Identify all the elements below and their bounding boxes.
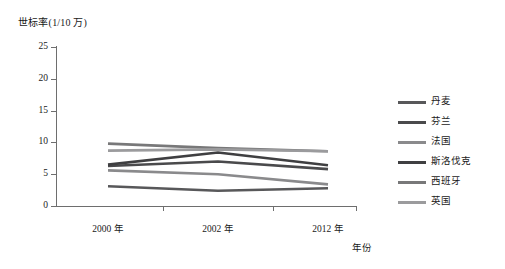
- legend-label: 斯洛伐克: [431, 157, 471, 167]
- legend-label: 芬兰: [431, 117, 451, 127]
- legend-label: 丹麦: [431, 97, 451, 107]
- series-line: [108, 186, 328, 190]
- legend-swatch: [398, 181, 426, 184]
- legend-label: 法国: [431, 137, 451, 147]
- legend-swatch: [398, 121, 426, 124]
- legend-item[interactable]: 丹麦: [398, 92, 498, 112]
- legend-label: 英国: [431, 197, 451, 207]
- x-axis-title: 年份: [352, 240, 372, 254]
- legend-item[interactable]: 西班牙: [398, 172, 498, 192]
- series-line: [108, 149, 328, 151]
- legend-item[interactable]: 芬兰: [398, 112, 498, 132]
- legend-item[interactable]: 法国: [398, 132, 498, 152]
- legend-item[interactable]: 斯洛伐克: [398, 152, 498, 172]
- legend-swatch: [398, 161, 426, 164]
- series-line: [108, 170, 328, 184]
- legend-label: 西班牙: [431, 177, 461, 187]
- legend-swatch: [398, 201, 426, 204]
- legend-item[interactable]: 英国: [398, 192, 498, 212]
- legend-swatch: [398, 141, 426, 144]
- chart-legend: 丹麦芬兰法国斯洛伐克西班牙英国: [398, 92, 498, 212]
- legend-swatch: [398, 101, 426, 104]
- chart-figure: 世标率(1/10 万) 0510152025 2000 年2002 年2012 …: [0, 0, 505, 269]
